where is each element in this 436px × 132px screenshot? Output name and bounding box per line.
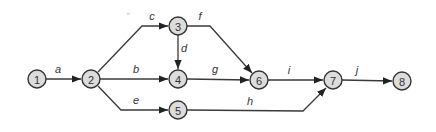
edge-label-c: c <box>149 10 155 22</box>
edge-label-f: f <box>198 10 202 22</box>
node-1: 1 <box>28 70 46 88</box>
node-8-label: 8 <box>399 76 405 88</box>
network-diagram: a b c d e f g h i j " 1 2 3 4 5 6 7 8 <box>0 0 436 132</box>
node-4-label: 4 <box>175 74 181 86</box>
edge-label-b: b <box>133 63 139 75</box>
node-3: 3 <box>169 17 187 35</box>
stray-mark: " <box>127 11 130 20</box>
node-1-label: 1 <box>34 74 40 86</box>
edge-label-e: e <box>133 94 139 106</box>
edge-g <box>187 79 249 80</box>
node-2-label: 2 <box>88 74 94 86</box>
edge-labels: a b c d e f g h i j " <box>55 10 359 107</box>
node-4: 4 <box>169 70 187 88</box>
node-5: 5 <box>169 101 187 119</box>
edge-j <box>342 80 392 81</box>
node-7: 7 <box>324 71 342 89</box>
nodes: 1 2 3 4 5 6 7 8 <box>28 17 411 119</box>
edge-h <box>187 88 326 111</box>
edge-label-h: h <box>247 95 253 107</box>
edge-f <box>187 26 252 73</box>
node-3-label: 3 <box>175 21 181 33</box>
edge-label-j: j <box>354 64 359 76</box>
node-8: 8 <box>393 72 411 90</box>
edge-label-i: i <box>288 64 291 76</box>
node-5-label: 5 <box>175 105 181 117</box>
edge-label-d: d <box>181 42 188 54</box>
edge-label-a: a <box>55 63 61 75</box>
node-6-label: 6 <box>256 75 262 87</box>
node-2: 2 <box>82 70 100 88</box>
node-6: 6 <box>250 71 268 89</box>
node-7-label: 7 <box>330 75 336 87</box>
diagram-svg: a b c d e f g h i j " 1 2 3 4 5 6 7 8 <box>0 0 436 132</box>
edges <box>46 26 392 111</box>
edge-label-g: g <box>212 63 219 75</box>
